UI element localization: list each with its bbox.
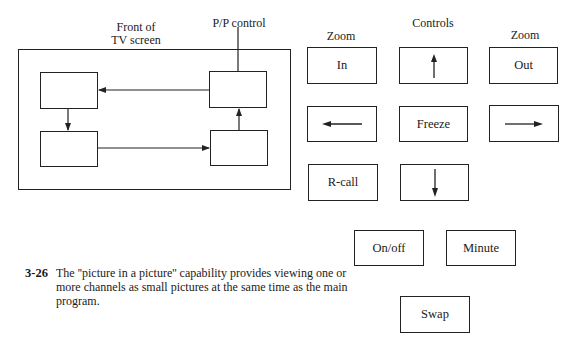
zoom-out-button[interactable]: Out	[489, 47, 558, 84]
left-arrow-icon	[322, 119, 362, 129]
caption-line-1: The ''picture in a picture'' capability …	[56, 266, 346, 280]
recall-button-label: R-call	[328, 175, 359, 190]
bottom-left-picture-box	[40, 131, 98, 167]
zoom-out-button-label: Out	[514, 58, 533, 73]
freeze-button-label: Freeze	[417, 117, 450, 132]
down-arrow-icon	[430, 169, 440, 197]
zoom-in-header: Zoom	[316, 30, 366, 43]
zoom-out-header: Zoom	[500, 29, 550, 42]
bottom-right-picture-box	[210, 130, 268, 166]
right-arrow-icon	[505, 119, 543, 129]
right-button[interactable]	[489, 105, 559, 142]
controls-title: Controls	[408, 17, 458, 30]
down-button[interactable]	[400, 164, 469, 201]
on-off-button-label: On/off	[372, 241, 405, 256]
figure-number: 3-26	[25, 266, 48, 280]
top-right-picture-box	[209, 71, 267, 108]
figure-caption: The ''picture in a picture'' capability …	[56, 266, 346, 308]
top-left-picture-box	[40, 72, 98, 109]
recall-button[interactable]: R-call	[308, 164, 378, 201]
tv-screen-label: Front of TV screen	[96, 21, 176, 47]
freeze-button[interactable]: Freeze	[399, 106, 468, 142]
up-arrow-icon	[429, 54, 439, 78]
zoom-in-button-label: In	[337, 58, 347, 73]
zoom-in-button[interactable]: In	[307, 47, 377, 84]
minute-button-label: Minute	[463, 241, 499, 256]
swap-button-label: Swap	[421, 307, 449, 322]
up-button[interactable]	[399, 47, 468, 84]
swap-button[interactable]: Swap	[400, 296, 470, 333]
caption-line-3: program.	[56, 294, 346, 308]
caption-line-2: more channels as small pictures at the s…	[56, 280, 346, 294]
minute-button[interactable]: Minute	[446, 230, 516, 266]
tv-screen-label-line2: TV screen	[96, 34, 176, 47]
pp-control-label: P/P control	[199, 17, 279, 30]
on-off-button[interactable]: On/off	[354, 230, 424, 266]
left-button[interactable]	[307, 106, 377, 142]
